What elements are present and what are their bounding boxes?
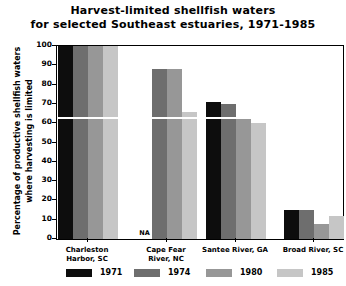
y-tick-label: 20 [30,195,52,203]
chart-title-line-2: for selected Southeast estuaries, 1971-1… [0,18,346,32]
y-tick-label: 80 [30,80,52,88]
legend-swatch [206,269,232,277]
legend-label: 1971 [100,268,122,278]
legend-label: 1980 [240,268,262,278]
chart-title: Harvest-limited shellfish waters for sel… [0,4,346,32]
bar [152,69,167,239]
x-axis-group-label-line: Broad River, SC [263,246,346,255]
y-tick-label: 60 [30,118,52,126]
y-tick-label: 50 [30,138,52,146]
y-tick-label: 10 [30,215,52,223]
bar [206,102,221,239]
chart-figure: Harvest-limited shellfish waters for sel… [0,0,346,286]
x-tick-mark [87,238,88,242]
bar [73,46,88,239]
bar [88,46,103,239]
bar [182,112,197,239]
legend-swatch [66,269,92,277]
y-axis-label: Percentage of productive shellfish water… [0,42,26,240]
legend-label: 1985 [311,268,333,278]
x-tick-mark [313,238,314,242]
y-tick-label: 40 [30,157,52,165]
plot-inner: NA [57,46,343,239]
gridline [57,117,343,119]
chart-title-line-1: Harvest-limited shellfish waters [0,4,346,18]
x-axis-group-label: Broad River, SC [263,246,346,255]
bar [103,46,118,239]
y-tick-label: 90 [30,60,52,68]
bar [251,123,266,239]
y-axis-tick-labels: 1009080706050403020100 [28,45,52,238]
y-tick-label: 70 [30,99,52,107]
bar-missing-label: NA [137,229,152,237]
bar [167,69,182,239]
plot-area: NA [56,45,344,240]
legend-swatch [134,269,160,277]
legend-label: 1974 [168,268,190,278]
bar [58,46,73,239]
y-tick-label: 100 [30,41,52,49]
y-tick-label: 30 [30,176,52,184]
bar [221,104,236,239]
bar [329,216,344,239]
legend-swatch [277,269,303,277]
x-tick-mark [235,238,236,242]
chart-legend: 1971197419801985 [0,267,346,281]
bar [236,119,251,239]
bar [314,224,329,239]
x-tick-mark [166,238,167,242]
bar [299,210,314,239]
y-tick-label: 0 [30,234,52,242]
x-axis-group-label-line: River, NC [116,255,216,264]
bar [284,210,299,239]
